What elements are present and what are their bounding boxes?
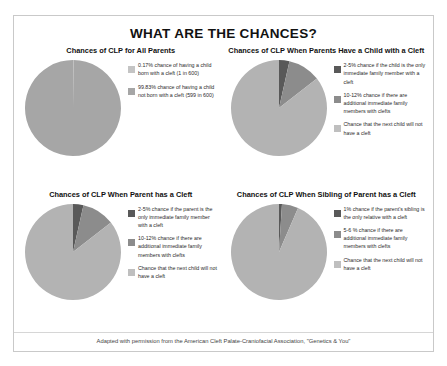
legend-label: 99.83% chance of having a child not born… <box>138 83 221 99</box>
chart-panel-all-parents: Chances of CLP for All Parents 0.17% cha… <box>18 45 224 189</box>
pie-chart-parent-has-cleft <box>21 201 125 302</box>
pie-svg <box>23 58 123 158</box>
legend-item: 2-5% chance if the child is the only imm… <box>334 61 427 86</box>
legend-item: 5-6 % chance if there are additional imm… <box>334 226 427 251</box>
legend-swatch <box>334 125 341 132</box>
chart-body: 0.17% chance of having a child born with… <box>21 57 221 188</box>
legend-swatch <box>128 239 135 246</box>
attribution-text: Adapted with permission from the America… <box>20 338 427 345</box>
chart-panel-parent-has-cleft: Chances of CLP When Parent has a Cleft 2… <box>18 189 224 333</box>
pie-slice <box>25 60 121 156</box>
legend-label: 1% chance if the parent's sibling is the… <box>344 205 427 221</box>
chart-body: 2-5% chance if the child is the only imm… <box>227 57 427 188</box>
pie-chart-sibling-of-parent-has-cleft <box>227 201 331 302</box>
legend-swatch <box>334 231 341 238</box>
legend-item: 99.83% chance of having a child not born… <box>128 83 221 99</box>
legend-label: 2-5% chance if the parent is the only im… <box>138 205 221 230</box>
pie-chart-parents-have-child-with-cleft <box>227 57 331 158</box>
legend-swatch <box>334 96 341 103</box>
legend-item: 1% chance if the parent's sibling is the… <box>334 205 427 221</box>
chart-legend: 1% chance if the parent's sibling is the… <box>331 201 427 277</box>
chart-legend: 2-5% chance if the child is the only imm… <box>331 57 427 142</box>
legend-item: Chance that the next child will not have… <box>128 264 221 280</box>
legend-swatch <box>334 210 341 217</box>
chart-body: 1% chance if the parent's sibling is the… <box>227 201 427 332</box>
chart-grid: Chances of CLP for All Parents 0.17% cha… <box>14 43 433 332</box>
legend-item: 0.17% chance of having a child born with… <box>128 61 221 77</box>
page-title: WHAT ARE THE CHANCES? <box>14 26 433 41</box>
pie-svg <box>229 58 329 158</box>
legend-label: 5-6 % chance if there are additional imm… <box>344 226 427 251</box>
chart-legend: 2-5% chance if the parent is the only im… <box>125 201 221 286</box>
legend-label: Chance that the next child will not have… <box>138 264 221 280</box>
legend-label: 10-12% chance if there are additional im… <box>344 91 427 116</box>
legend-item: 10-12% chance if there are additional im… <box>128 234 221 259</box>
infographic-poster: WHAT ARE THE CHANCES? Chances of CLP for… <box>13 15 434 352</box>
chart-title: Chances of CLP When Parent has a Cleft <box>21 191 221 199</box>
chart-title: Chances of CLP for All Parents <box>21 47 221 55</box>
pie-svg <box>23 202 123 302</box>
legend-swatch <box>128 269 135 276</box>
legend-swatch <box>128 66 135 73</box>
legend-label: 2-5% chance if the child is the only imm… <box>344 61 427 86</box>
legend-swatch <box>334 261 341 268</box>
chart-title: Chances of CLP When Parents Have a Child… <box>227 47 427 55</box>
legend-item: Chance that the next child will not have… <box>334 256 427 272</box>
legend-item: 10-12% chance if there are additional im… <box>334 91 427 116</box>
legend-swatch <box>128 88 135 95</box>
legend-label: 10-12% chance if there are additional im… <box>138 234 221 259</box>
legend-label: Chance that the next child will not have… <box>344 256 427 272</box>
chart-body: 2-5% chance if the parent is the only im… <box>21 201 221 332</box>
chart-title: Chances of CLP When Sibling of Parent ha… <box>227 191 427 199</box>
footer-band: Adapted with permission from the America… <box>14 332 433 351</box>
legend-item: Chance that the next child will not have… <box>334 120 427 136</box>
pie-svg <box>229 202 329 302</box>
chart-panel-sibling-of-parent-has-cleft: Chances of CLP When Sibling of Parent ha… <box>224 189 430 333</box>
chart-panel-parents-have-child-with-cleft: Chances of CLP When Parents Have a Child… <box>224 45 430 189</box>
legend-swatch <box>128 210 135 217</box>
chart-legend: 0.17% chance of having a child born with… <box>125 57 221 104</box>
legend-item: 2-5% chance if the parent is the only im… <box>128 205 221 230</box>
legend-label: Chance that the next child will not have… <box>344 120 427 136</box>
pie-slice <box>230 204 326 300</box>
legend-swatch <box>334 66 341 73</box>
legend-label: 0.17% chance of having a child born with… <box>138 61 221 77</box>
pie-chart-all-parents <box>21 57 125 158</box>
